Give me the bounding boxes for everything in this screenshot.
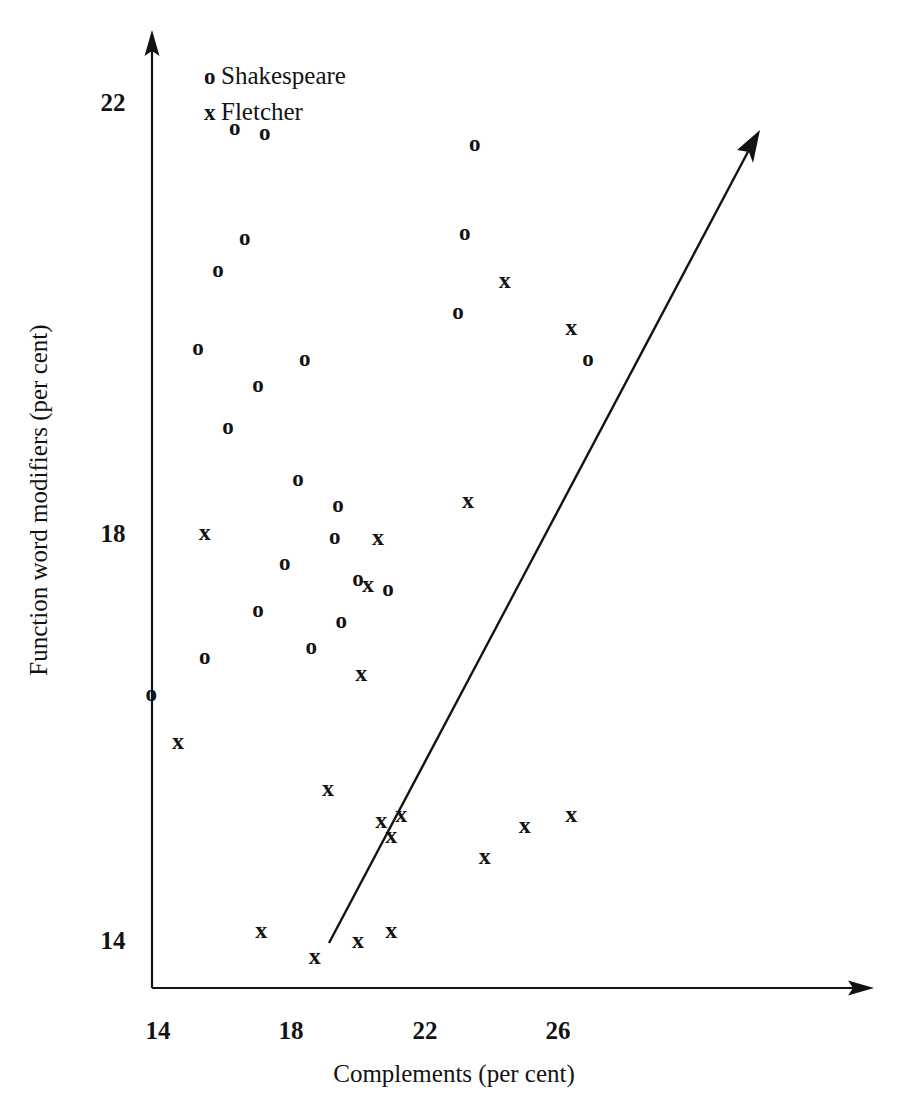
data-point-shakespeare: o: [382, 576, 394, 602]
x-axis-title: Complements (per cent): [333, 1061, 575, 1086]
x-tick-label-26: 26: [546, 1018, 571, 1043]
data-point-fletcher: x: [565, 314, 577, 341]
x-axis: [152, 981, 874, 996]
y-axis-title: Function word modifiers (per cent): [26, 324, 51, 675]
data-point-shakespeare: o: [259, 120, 271, 146]
data-point-fletcher: x: [519, 811, 531, 838]
data-point-shakespeare: o: [252, 372, 264, 398]
data-point-fletcher: x: [322, 775, 334, 802]
legend: o Shakespeare x Fletcher: [204, 62, 346, 134]
data-point-fletcher: x: [499, 267, 511, 294]
circle-marker-icon: o: [204, 64, 221, 90]
data-point-shakespeare: o: [192, 335, 204, 361]
data-point-fletcher: x: [362, 570, 374, 597]
data-point-shakespeare: o: [469, 131, 481, 157]
data-point-fletcher: x: [255, 916, 267, 943]
data-point-fletcher: x: [172, 728, 184, 755]
x-tick-label-22: 22: [413, 1018, 438, 1043]
data-point-shakespeare: o: [582, 346, 594, 372]
data-point-shakespeare: o: [199, 644, 211, 670]
data-point-fletcher: x: [372, 523, 384, 550]
y-tick-label-14: 14: [101, 928, 126, 953]
data-point-shakespeare: o: [329, 524, 341, 550]
data-point-fletcher: x: [462, 487, 474, 514]
cross-marker-icon: x: [204, 100, 221, 126]
data-point-shakespeare: o: [452, 299, 464, 325]
x-tick-label-18: 18: [279, 1018, 304, 1043]
data-point-shakespeare: o: [212, 257, 224, 283]
data-point-fletcher: x: [385, 916, 397, 943]
legend-item-fletcher: x Fletcher: [204, 98, 346, 126]
data-point-fletcher: x: [352, 927, 364, 954]
x-tick-label-14: 14: [146, 1018, 171, 1043]
data-point-shakespeare: o: [292, 466, 304, 492]
y-axis: [145, 30, 160, 988]
data-point-fletcher: x: [199, 518, 211, 545]
data-point-fletcher: x: [309, 942, 321, 969]
legend-label-shakespeare: Shakespeare: [221, 62, 346, 90]
scatter-plot-figure: 14 18 22 26 22 18 14 Complements (per ce…: [0, 0, 909, 1119]
legend-item-shakespeare: o Shakespeare: [204, 62, 346, 90]
data-point-shakespeare: o: [459, 220, 471, 246]
y-tick-label-22: 22: [101, 90, 126, 115]
plot-canvas: [0, 0, 909, 1119]
data-point-shakespeare: o: [222, 414, 234, 440]
data-point-shakespeare: o: [229, 115, 241, 141]
data-point-shakespeare: o: [299, 346, 311, 372]
data-point-fletcher: x: [479, 843, 491, 870]
data-point-shakespeare: o: [336, 608, 348, 634]
data-point-fletcher: x: [565, 801, 577, 828]
data-point-shakespeare: o: [252, 597, 264, 623]
data-point-shakespeare: o: [279, 550, 291, 576]
y-tick-label-18: 18: [101, 521, 126, 546]
data-point-shakespeare: o: [239, 225, 251, 251]
data-point-shakespeare: o: [146, 681, 158, 707]
data-point-fletcher: x: [355, 659, 367, 686]
data-point-shakespeare: o: [306, 634, 318, 660]
caption-sliver: [0, 1110, 909, 1119]
data-point-fletcher: x: [385, 822, 397, 849]
data-point-shakespeare: o: [332, 492, 344, 518]
